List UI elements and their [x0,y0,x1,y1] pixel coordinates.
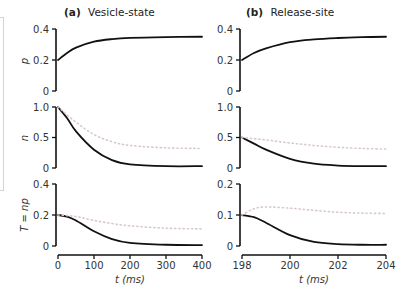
solid-curve [242,215,386,245]
y-tick-label: 0 [227,241,233,252]
dotted-curve [242,138,386,150]
solid-curve [242,138,386,167]
x-tick-label: 0 [55,260,61,271]
y-tick-label: 0 [43,241,49,252]
x-tick-label: 200 [280,260,299,271]
xlabel-left: t (ms) [115,274,145,285]
x-tick-label: 200 [120,260,139,271]
y-tick-label: 0 [227,163,233,174]
y-tick-label: 0 [227,86,233,97]
y-tick-label: 0.4 [217,24,233,35]
solid-curve [58,37,202,60]
ylabel-T: T = np [19,198,30,232]
x-tick-label: 100 [84,260,103,271]
solid-curve [58,215,202,245]
plot-layer: 00.20.400.51.000.20.4010020030040000.20.… [33,24,395,272]
x-tick-label: 198 [232,260,251,271]
x-tick-label: 400 [192,260,211,271]
solid-curve [242,37,386,60]
x-tick-label: 300 [156,260,175,271]
y-tick-label: 0.2 [217,55,233,66]
y-tick-label: 0.4 [33,24,49,35]
y-tick-label: 0.2 [33,210,49,221]
dotted-curve [242,207,386,215]
y-tick-label: 0.5 [217,132,233,143]
y-tick-label: 0 [43,163,49,174]
figure: (a) Vesicle-state (b) Release-site p n T… [0,0,411,299]
y-tick-label: 0 [43,86,49,97]
y-tick-label: 0.4 [33,179,49,190]
y-tick-label: 1.0 [217,102,233,113]
xlabel-right: t (ms) [299,274,329,285]
panel-a-title: (a) Vesicle-state [64,6,155,18]
ylabel-n: n [19,135,30,141]
ylabel-p: p [19,58,30,65]
y-tick-label: 0.1 [217,210,233,221]
x-tick-label: 202 [328,260,347,271]
dotted-curve [58,107,202,148]
y-tick-label: 0.5 [33,132,49,143]
x-tick-label: 204 [376,260,395,271]
y-tick-label: 0.2 [217,179,233,190]
panel-b-title: (b) Release-site [246,6,334,18]
solid-curve [58,107,202,166]
y-tick-label: 1.0 [33,102,49,113]
y-tick-label: 0.2 [33,55,49,66]
